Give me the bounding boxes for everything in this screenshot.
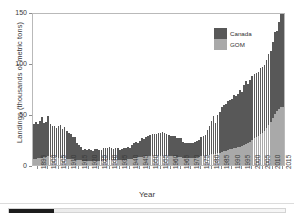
x-tickmark-1960 (170, 166, 171, 169)
x-tick-1970: 1970 (193, 155, 200, 169)
x-tickmark-1915 (78, 166, 79, 169)
chart-legend: Canada GOM (214, 28, 276, 50)
x-tickmark-1965 (180, 166, 181, 169)
x-tick-1925: 1925 (101, 155, 108, 169)
x-tickmark-1905 (58, 166, 59, 169)
horizontal-scrollbar[interactable] (0, 203, 294, 217)
x-tick-1980: 1980 (213, 155, 220, 169)
x-tick-1945: 1945 (142, 155, 149, 169)
x-tickmark-1925 (98, 166, 99, 169)
legend-label-canada: Canada (230, 30, 252, 37)
y-tick-50: 50 (0, 111, 27, 118)
x-tick-1905: 1905 (60, 155, 67, 169)
x-tickmark-1990 (231, 166, 232, 169)
bar-2016 (284, 14, 285, 165)
x-tick-1935: 1935 (121, 155, 128, 169)
x-tickmark-2015 (282, 166, 283, 169)
x-tick-1915: 1915 (81, 155, 88, 169)
x-tickmark-1940 (129, 166, 130, 169)
x-tick-1895: 1895 (40, 155, 47, 169)
x-tick-2000: 2000 (254, 155, 261, 169)
x-tickmark-1985 (221, 166, 222, 169)
scrollbar-thumb[interactable] (9, 209, 54, 213)
x-tick-1930: 1930 (111, 155, 118, 169)
x-tick-1975: 1975 (203, 155, 210, 169)
y-tickmark-50 (29, 115, 32, 116)
x-tickmark-1995 (241, 166, 242, 169)
x-tick-2015: 2015 (285, 155, 292, 169)
x-tickmark-1970 (190, 166, 191, 169)
x-tickmark-1935 (119, 166, 120, 169)
x-tickmark-1950 (149, 166, 150, 169)
legend-label-gom: GOM (230, 41, 245, 48)
x-tickmark-1975 (200, 166, 201, 169)
legend-item-canada: Canada (214, 28, 276, 39)
legend-swatch-gom (214, 39, 227, 50)
x-axis-label: Year (0, 190, 294, 199)
chart-figure: Landings (thousands of metric tons) 0501… (0, 0, 294, 200)
x-tick-1940: 1940 (132, 155, 139, 169)
document-page: Landings (thousands of metric tons) 0501… (0, 0, 294, 218)
x-tickmark-1945 (139, 166, 140, 169)
x-tick-1920: 1920 (91, 155, 98, 169)
y-axis-label: Landings (thousands of metric tons) (15, 8, 24, 158)
legend-item-gom: GOM (214, 39, 276, 50)
x-tick-1990: 1990 (234, 155, 241, 169)
x-tick-1960: 1960 (172, 155, 179, 169)
x-tick-1995: 1995 (244, 155, 251, 169)
y-tick-150: 150 (0, 9, 27, 16)
x-tick-1910: 1910 (70, 155, 77, 169)
x-tickmark-2000 (251, 166, 252, 169)
x-tickmark-1895 (37, 166, 38, 169)
x-tickmark-1955 (160, 166, 161, 169)
x-tick-1965: 1965 (183, 155, 190, 169)
x-tickmark-1980 (211, 166, 212, 169)
x-tick-1900: 1900 (50, 155, 57, 169)
legend-swatch-canada (214, 28, 227, 39)
x-tickmark-1930 (109, 166, 110, 169)
x-tickmark-1920 (88, 166, 89, 169)
x-tick-1950: 1950 (152, 155, 159, 169)
y-tickmark-0 (29, 166, 32, 167)
x-tick-2010: 2010 (274, 155, 281, 169)
x-tickmark-2005 (262, 166, 263, 169)
x-tickmark-2010 (272, 166, 273, 169)
x-tickmark-1900 (47, 166, 48, 169)
y-tick-0: 0 (0, 162, 27, 169)
x-tick-1985: 1985 (223, 155, 230, 169)
bar-segment-canada (284, 14, 285, 108)
x-tickmark-1910 (68, 166, 69, 169)
y-tick-100: 100 (0, 60, 27, 67)
x-tick-1955: 1955 (162, 155, 169, 169)
y-tickmark-150 (29, 13, 32, 14)
y-tickmark-100 (29, 64, 32, 65)
x-tick-2005: 2005 (264, 155, 271, 169)
